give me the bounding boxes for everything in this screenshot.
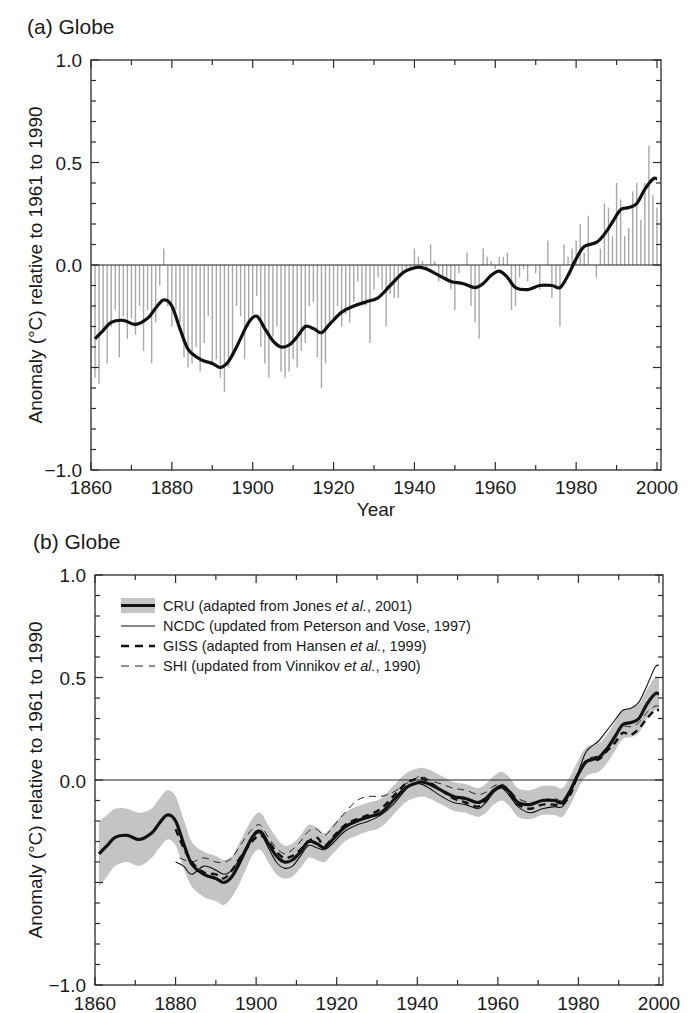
y-tick-label: 0.0	[56, 255, 82, 276]
y-tick-labels: 1.0 0.5 0.0 −1.0	[44, 50, 82, 481]
x-tick-label: 1920	[316, 993, 358, 1013]
legend-item-ncdc: NCDC (updated from Peterson and Vose, 19…	[121, 618, 471, 634]
legend-label: SHI (updated from Vinnikov et al., 1990)	[163, 658, 421, 674]
y-tick-label: 1.0	[56, 50, 82, 71]
x-tick-label: 1940	[393, 477, 435, 498]
panel-a-chart: (a) Globe 1.0 0.5 0.0 −1.0 1860 1880 190…	[25, 15, 678, 520]
legend: CRU (adapted from Jones et al., 2001) NC…	[121, 598, 471, 674]
x-tick-label: 1940	[396, 993, 438, 1013]
legend-item-cru: CRU (adapted from Jones et al., 2001)	[121, 598, 412, 614]
x-axis-label: Year	[357, 499, 396, 520]
y-axis-label: Anomaly (°C) relative to 1961 to 1990	[25, 106, 46, 423]
x-tick-labels: 1860 1880 1900 1920 1940 1960 1980 2000	[70, 477, 678, 498]
y-tick-label: 0.5	[60, 668, 86, 689]
x-tick-label: 1960	[477, 993, 519, 1013]
y-tick-label: 1.0	[60, 565, 86, 586]
x-tick-label: 1880	[151, 477, 193, 498]
y-tick-label: 0.5	[56, 153, 82, 174]
x-tick-label: 1980	[557, 993, 599, 1013]
panel-b-title: (b) Globe	[33, 530, 121, 553]
panel-a-title: (a) Globe	[27, 15, 115, 38]
figure: (a) Globe 1.0 0.5 0.0 −1.0 1860 1880 190…	[0, 0, 695, 1013]
y-tick-label: 0.0	[60, 771, 86, 792]
legend-item-shi: SHI (updated from Vinnikov et al., 1990)	[121, 658, 421, 674]
x-tick-label: 1980	[555, 477, 597, 498]
cru-uncertainty-band	[99, 677, 659, 905]
legend-label: CRU (adapted from Jones et al., 2001)	[163, 598, 412, 614]
x-tick-label: 1860	[70, 477, 112, 498]
x-tick-labels: 1860 1880 1900 1920 1940 1960 1980 2000	[74, 993, 680, 1013]
legend-item-giss: GISS (adapted from Hansen et al., 1999)	[121, 638, 427, 654]
panel-b-chart: (b) Globe CRU (adapted from Jones et al.…	[25, 530, 680, 1013]
x-tick-label: 2000	[638, 993, 680, 1013]
x-tick-label: 1900	[235, 993, 277, 1013]
x-tick-label: 1880	[154, 993, 196, 1013]
x-tick-label: 1960	[474, 477, 516, 498]
legend-label: GISS (adapted from Hansen et al., 1999)	[163, 638, 427, 654]
legend-label: NCDC (updated from Peterson and Vose, 19…	[163, 618, 471, 634]
x-tick-label: 1920	[312, 477, 354, 498]
x-tick-label: 1860	[74, 993, 116, 1013]
y-tick-labels: 1.0 0.5 0.0 −1.0	[48, 565, 86, 996]
x-tick-label: 1900	[232, 477, 274, 498]
y-axis-label: Anomaly (°C) relative to 1961 to 1990	[25, 621, 46, 938]
x-tick-label: 2000	[636, 477, 678, 498]
